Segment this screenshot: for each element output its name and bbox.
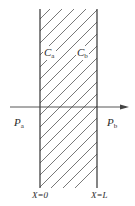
membrane-diagram [0,0,135,206]
arrow-right-icon [120,105,129,110]
label-pa-sub: a [21,122,24,130]
label-pa-main: P [14,116,21,128]
label-xl: X=L [91,191,108,200]
label-x0: X=0 [32,191,48,200]
label-pb-sub: b [114,122,118,130]
label-ca-sub: a [51,52,54,60]
label-cb: Cb [77,47,88,60]
label-pa: Pa [14,117,24,130]
label-pb-main: P [107,116,114,128]
label-ca: Ca [44,47,54,60]
label-pb: Pb [107,117,117,130]
label-cb-sub: b [84,52,88,60]
